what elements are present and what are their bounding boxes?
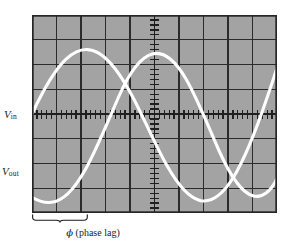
oscilloscope-graticule <box>32 15 277 213</box>
v-out-label: Vout <box>2 166 19 178</box>
phase-lag-caption-text: (phase lag) <box>73 227 120 238</box>
v-in-label-subscript: in <box>11 112 17 121</box>
phase-lag-oscilloscope-figure: Vin Vout ϕ (phase lag) <box>0 0 287 248</box>
v-out-label-subscript: out <box>9 169 19 178</box>
oscilloscope-screen <box>32 15 277 213</box>
phase-lag-caption: ϕ (phase lag) <box>33 227 153 238</box>
v-out-label-base: V <box>2 165 9 177</box>
v-in-label-base: V <box>4 108 11 120</box>
phase-lag-bracket-shape <box>32 214 88 223</box>
v-in-label: Vin <box>4 109 17 121</box>
phase-lag-bracket <box>32 214 88 223</box>
